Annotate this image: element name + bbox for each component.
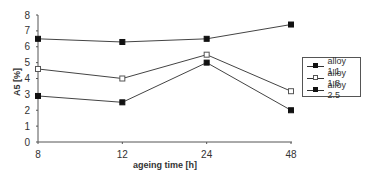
x-tick-label: 8 xyxy=(35,149,41,160)
legend: alloy 1.1 alloy 1.8 alloy 2.5 xyxy=(302,57,361,97)
y-tick-label: 3 xyxy=(24,89,30,100)
series-group xyxy=(36,22,294,113)
legend-item-alloy-2-5: alloy 2.5 xyxy=(307,84,360,96)
series-line xyxy=(38,63,291,111)
x-tick-label: 24 xyxy=(201,149,213,160)
y-axis-label: A5 [%] xyxy=(12,68,22,96)
filled-square-marker-icon xyxy=(120,100,125,105)
filled-square-marker-icon xyxy=(204,36,209,41)
open-square-marker-icon xyxy=(307,74,324,82)
x-tick-label: 48 xyxy=(285,149,297,160)
y-tick-label: 5 xyxy=(24,57,30,68)
y-tick-label: 6 xyxy=(24,41,30,52)
y-tick-label: 4 xyxy=(24,73,30,84)
y-tick-label: 1 xyxy=(24,121,30,132)
open-square-marker-icon xyxy=(36,66,41,71)
open-square-marker-icon xyxy=(204,52,209,57)
series-line xyxy=(38,25,291,42)
filled-square-marker-icon xyxy=(289,22,294,27)
open-square-marker-icon xyxy=(289,89,294,94)
filled-square-marker-icon xyxy=(36,36,41,41)
legend-label: alloy 2.5 xyxy=(327,80,360,100)
x-axis-label: ageing time [h] xyxy=(133,160,197,170)
filled-square-marker-icon xyxy=(289,108,294,113)
y-tick-label: 2 xyxy=(24,105,30,116)
filled-square-marker-icon xyxy=(36,93,41,98)
x-tick-label: 12 xyxy=(117,149,129,160)
y-tick-label: 0 xyxy=(24,137,30,148)
filled-square-marker-icon xyxy=(120,39,125,44)
y-tick-label: 7 xyxy=(24,25,30,36)
filled-square-marker-icon xyxy=(307,86,324,94)
open-square-marker-icon xyxy=(120,76,125,81)
filled-square-marker-icon xyxy=(204,60,209,65)
series-line xyxy=(38,55,291,92)
filled-square-marker-icon xyxy=(307,62,324,70)
y-tick-label: 8 xyxy=(24,10,30,21)
